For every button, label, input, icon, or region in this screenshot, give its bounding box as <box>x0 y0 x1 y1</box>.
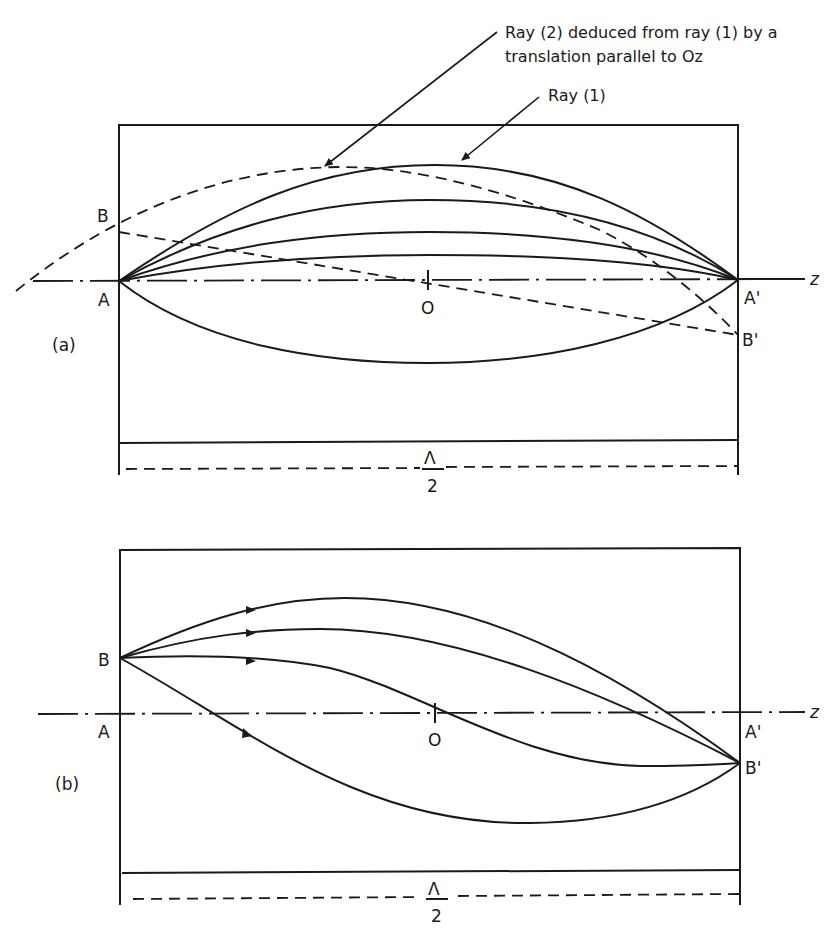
ray-1 <box>119 165 738 281</box>
panel-b: B A O A' B' z (b) Λ 2 <box>38 548 820 926</box>
point-a-label: A <box>98 722 110 742</box>
panel-b-frame <box>120 548 740 905</box>
ray-upper-2 <box>119 200 738 281</box>
lambda-numerator: Λ <box>428 879 440 899</box>
panel-a-axis <box>33 279 805 281</box>
arrow-to-ray-2 <box>325 32 497 166</box>
point-o-label: O <box>428 730 441 750</box>
annotation-ray-2-line2: translation parallel to Oz <box>505 47 703 66</box>
lambda-denominator: 2 <box>427 476 438 496</box>
panel-b-label: (b) <box>55 774 79 794</box>
axis-z-label: z <box>809 702 820 722</box>
point-o-label: O <box>421 298 434 318</box>
point-b-label: B <box>97 206 109 226</box>
panel-a-label: (a) <box>52 335 76 355</box>
ray-2-dashed <box>16 167 738 335</box>
lambda-denominator: 2 <box>431 906 442 926</box>
panel-b-span-line <box>122 870 740 873</box>
direction-arrow-icon <box>246 606 256 614</box>
chord-b-bprime <box>119 232 738 335</box>
point-a-label: A <box>98 290 110 310</box>
annotation-ray-2-line1: Ray (2) deduced from ray (1) by a <box>505 23 778 42</box>
ray-lower <box>119 280 738 363</box>
point-a-prime-label: A' <box>744 288 760 308</box>
point-a-prime-label: A' <box>745 722 761 742</box>
point-b-label: B <box>98 650 110 670</box>
point-b-prime-label: B' <box>745 758 761 778</box>
panel-a-span-line <box>119 440 738 443</box>
annotation-ray-1: Ray (1) <box>548 86 606 105</box>
point-b-prime-label: B' <box>742 330 758 350</box>
panel-a: Ray (2) deduced from ray (1) by a transl… <box>16 23 820 496</box>
axis-z-label: z <box>809 269 820 289</box>
diagram-canvas: Ray (2) deduced from ray (1) by a transl… <box>0 0 837 940</box>
direction-arrow-icon <box>246 629 256 637</box>
panel-b-axis <box>38 712 805 714</box>
arrow-to-ray-1 <box>462 97 539 160</box>
lambda-numerator: Λ <box>424 448 436 468</box>
